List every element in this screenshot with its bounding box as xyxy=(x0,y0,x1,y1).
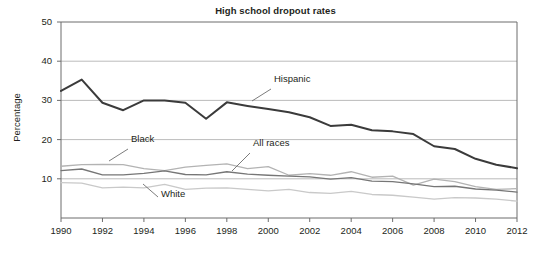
x-tick-label-1994: 1994 xyxy=(121,225,167,236)
y-tick-marks xyxy=(57,22,61,179)
series-label-white: White xyxy=(161,188,185,199)
series-label-hispanic: Hispanic xyxy=(274,73,310,84)
y-tick-label-40: 40 xyxy=(26,55,52,66)
leader-line-hispanic xyxy=(252,89,271,101)
axis-lines xyxy=(61,22,517,218)
series-label-black: Black xyxy=(131,133,154,144)
x-tick-label-2008: 2008 xyxy=(411,225,457,236)
x-tick-label-1992: 1992 xyxy=(79,225,125,236)
gridlines xyxy=(61,22,517,179)
x-tick-label-1996: 1996 xyxy=(162,225,208,236)
x-tick-label-2010: 2010 xyxy=(453,225,499,236)
x-tick-label-2002: 2002 xyxy=(287,225,333,236)
y-tick-label-30: 30 xyxy=(26,94,52,105)
x-tick-label-2012: 2012 xyxy=(494,225,540,236)
series-line-white xyxy=(61,183,517,201)
x-tick-marks xyxy=(61,218,517,222)
y-tick-label-50: 50 xyxy=(26,16,52,27)
dropout-rates-chart: High school dropout rates Percentage 102… xyxy=(0,0,551,253)
plot-canvas xyxy=(0,0,551,253)
x-tick-label-2006: 2006 xyxy=(370,225,416,236)
series-label-all-races: All races xyxy=(253,137,289,148)
x-tick-label-2004: 2004 xyxy=(328,225,374,236)
x-tick-label-1990: 1990 xyxy=(38,225,84,236)
y-tick-label-20: 20 xyxy=(26,134,52,145)
series-line-hispanic xyxy=(61,80,517,169)
leader-line-black xyxy=(109,149,128,161)
x-tick-label-1998: 1998 xyxy=(204,225,250,236)
y-tick-label-10: 10 xyxy=(26,173,52,184)
x-tick-label-2000: 2000 xyxy=(245,225,291,236)
